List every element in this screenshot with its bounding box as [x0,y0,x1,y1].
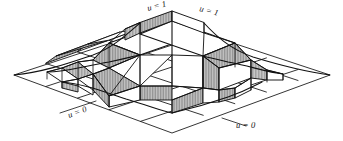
surface-plot-svg: u = 1 u = 1 u = 0 u = 0 [0,0,343,141]
figure-canvas: u = 1 u = 1 u = 0 u = 0 [0,0,343,141]
label-u-equals-0-right: u = 0 [236,120,256,130]
face-shaded [140,86,172,100]
label-u-equals-1-right: u = 1 [199,3,220,17]
label-u-equals-0-left: u = 0 [66,104,88,120]
label-u-equals-1-left: u = 1 [146,0,167,13]
face-white [172,55,203,88]
